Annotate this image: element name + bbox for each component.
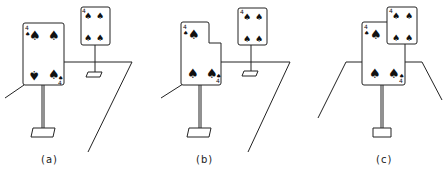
caption-a: (a) <box>41 154 58 165</box>
svg-text:4: 4 <box>399 77 403 84</box>
interposition-diagram: 4♠ ♠♠ ♠♠ ♠4 4 ♠♠ ♠♠ 4♠ ♠ ♠♠ ♠4 4 ♠♠ ♠♠ 4… <box>0 0 444 171</box>
svg-text:♠: ♠ <box>96 11 104 21</box>
svg-text:♠: ♠ <box>188 27 200 42</box>
svg-text:4: 4 <box>58 79 62 86</box>
svg-text:♠: ♠ <box>96 33 104 43</box>
table-edge-left <box>318 62 362 118</box>
panel-b <box>161 8 290 152</box>
svg-text:♠: ♠ <box>392 33 400 43</box>
table-edge-left <box>161 84 183 98</box>
near-stand-base <box>373 128 391 137</box>
svg-text:♠: ♠ <box>187 66 199 81</box>
svg-text:♠: ♠ <box>255 34 263 44</box>
near-stand-base <box>187 128 211 137</box>
svg-text:♠: ♠ <box>243 12 251 22</box>
svg-text:♠: ♠ <box>84 33 92 43</box>
svg-text:♠: ♠ <box>364 29 369 36</box>
far-stand-base <box>86 72 102 77</box>
near-stand-base <box>31 128 55 137</box>
svg-text:4: 4 <box>216 77 220 84</box>
far-stand-base <box>242 71 258 76</box>
caption-c: (c) <box>376 154 392 165</box>
svg-text:♠: ♠ <box>392 11 400 21</box>
svg-text:♠: ♠ <box>255 12 263 22</box>
svg-text:♠: ♠ <box>28 68 40 83</box>
svg-text:♠: ♠ <box>29 28 41 43</box>
svg-text:♠: ♠ <box>369 66 381 81</box>
svg-text:♠: ♠ <box>48 28 60 43</box>
svg-text:♠: ♠ <box>388 66 400 81</box>
table-edge-left <box>5 85 24 98</box>
svg-text:♠: ♠ <box>243 34 251 44</box>
svg-text:♠: ♠ <box>405 33 413 43</box>
caption-b: (b) <box>196 154 213 165</box>
table-edge-right <box>405 62 442 100</box>
svg-text:♠: ♠ <box>84 11 92 21</box>
svg-text:♠: ♠ <box>370 27 382 42</box>
svg-text:♠: ♠ <box>405 11 413 21</box>
